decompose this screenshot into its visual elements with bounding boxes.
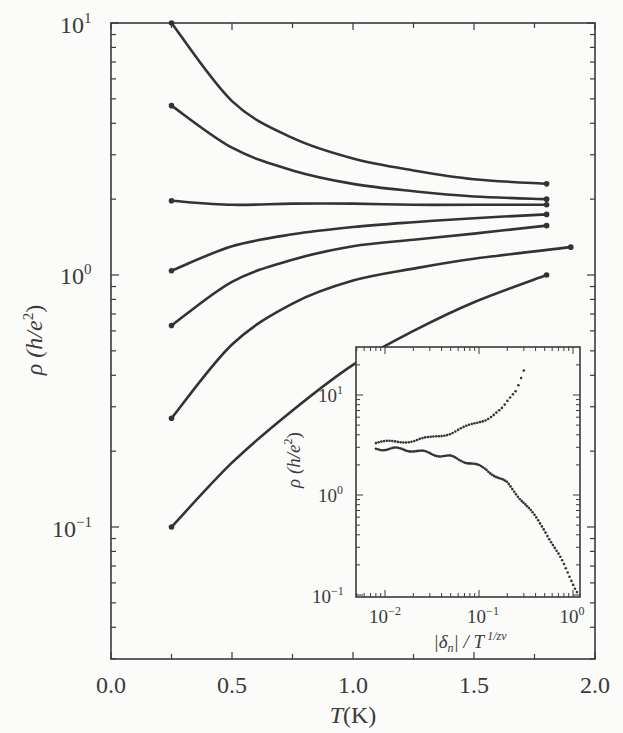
inset-data-point <box>421 437 424 440</box>
inset-data-point <box>541 525 544 528</box>
curve-start-marker <box>169 103 175 109</box>
inset-data-point <box>380 440 383 443</box>
inset-data-point <box>451 432 454 435</box>
curve-end-marker <box>544 202 550 208</box>
inset-data-point <box>408 441 411 444</box>
inset-data-point <box>485 469 488 472</box>
inset-data-point <box>416 439 419 442</box>
inset-data-point <box>509 396 512 399</box>
inset-data-point <box>522 501 525 504</box>
inset-data-point <box>576 591 579 594</box>
inset-data-point <box>462 426 465 429</box>
curve-end-marker <box>544 212 550 218</box>
inset-plot-frame <box>356 347 580 597</box>
inset-data-point <box>565 567 568 570</box>
inset-data-point <box>424 436 427 439</box>
inset-data-point <box>501 407 504 410</box>
inset-data-point <box>506 400 509 403</box>
data-curve <box>172 201 547 205</box>
inset-data-point <box>542 528 545 531</box>
inset-data-point <box>432 435 435 438</box>
inset-data-point <box>546 535 549 538</box>
ytick-label: 101 <box>60 10 92 38</box>
inset-data-point <box>513 490 516 493</box>
inset-data-point <box>429 435 432 438</box>
inset-data-point <box>394 440 397 443</box>
inset-data-point <box>515 493 518 496</box>
inset-data-point <box>454 430 457 433</box>
inset-ytick-label: 10−1 <box>312 584 344 607</box>
inset-data-point <box>548 538 551 541</box>
inset-data-point <box>468 424 471 427</box>
inset-data-point <box>535 516 538 519</box>
y-axis-label: ρ (h/e2) <box>20 305 47 376</box>
inset-data-point <box>572 584 575 587</box>
inset-data-point <box>557 552 560 555</box>
inset-data-point <box>443 434 446 437</box>
ytick-label: 100 <box>60 261 92 289</box>
inset-ytick-label: 101 <box>318 383 343 406</box>
inset-data-point <box>479 421 482 424</box>
inset-data-point <box>552 544 555 547</box>
inset-data-point <box>410 441 413 444</box>
xtick-label: 0.0 <box>96 672 126 698</box>
inset-data-point <box>440 435 443 438</box>
inset-data-point <box>512 393 515 396</box>
inset-data-point <box>566 571 569 574</box>
curve-start-marker <box>169 268 175 274</box>
inset-data-point <box>383 440 386 443</box>
inset-data-point <box>413 440 416 443</box>
data-curve <box>172 23 547 184</box>
inset-chart <box>356 347 580 597</box>
curve-end-marker <box>568 244 574 250</box>
inset-data-point <box>568 576 571 579</box>
inset-data-point <box>476 421 479 424</box>
inset-data-point <box>438 435 441 438</box>
inset-data-point <box>460 427 463 430</box>
inset-data-point <box>511 488 514 491</box>
inset-data-point <box>465 424 468 427</box>
inset-data-point <box>427 436 430 439</box>
inset-y-axis-label: ρ (h/e2) <box>281 432 305 489</box>
curve-start-marker <box>169 20 175 26</box>
inset-data-point <box>528 507 531 510</box>
inset-data-point <box>399 441 402 444</box>
curve-end-marker <box>544 223 550 229</box>
inset-data-point <box>531 511 534 514</box>
data-curve <box>172 106 547 200</box>
inset-xtick-label: 10−1 <box>467 604 499 627</box>
inset-data-point <box>481 420 484 423</box>
inset-data-point <box>495 411 498 414</box>
inset-data-point <box>555 549 558 552</box>
curve-end-marker <box>544 272 550 278</box>
inset-data-point <box>559 556 562 559</box>
inset-data-point <box>539 522 542 525</box>
inset-data-point <box>517 384 520 387</box>
curve-end-marker <box>544 196 550 202</box>
xtick-label: 1.5 <box>459 672 489 698</box>
inset-data-point <box>550 541 553 544</box>
inset-data-point <box>530 509 533 512</box>
inset-xtick-label: 10−2 <box>369 604 401 627</box>
curve-start-marker <box>169 323 175 329</box>
inset-data-point <box>506 481 509 484</box>
inset-data-point <box>520 377 523 380</box>
x-axis-label: T(K) <box>330 702 377 728</box>
inset-data-point <box>561 559 564 562</box>
inset-data-point <box>492 414 495 417</box>
inset-data-point <box>544 531 547 534</box>
data-curve <box>172 214 547 270</box>
inset-data-point <box>391 440 394 443</box>
inset-data-point <box>574 587 577 590</box>
inset-ytick-label: 100 <box>318 483 343 506</box>
inset-data-point <box>405 441 408 444</box>
curve-start-marker <box>169 415 175 421</box>
inset-data-point <box>490 416 493 419</box>
chart: 101 100 10−1 0.0 0.5 1.0 1.5 2.0 T(K) ρ … <box>0 0 623 733</box>
inset-data-point <box>537 519 540 522</box>
inset-data-point <box>514 390 517 393</box>
inset-data-point <box>473 422 476 425</box>
curve-start-marker <box>169 524 175 530</box>
inset-data-point <box>435 435 438 438</box>
xtick-label: 0.5 <box>217 672 247 698</box>
